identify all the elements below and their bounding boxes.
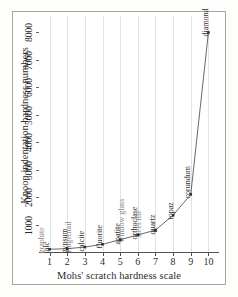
figure-page: Knoop indentation hardness numbers Mohs'… bbox=[0, 0, 238, 297]
y-tick-mark-8000 bbox=[36, 32, 39, 33]
annotation-label-window-glass: window glass bbox=[117, 198, 126, 242]
gridline-x-2 bbox=[67, 16, 68, 252]
y-tick-mark-4000 bbox=[36, 142, 39, 143]
y-tick-mark-7000 bbox=[36, 60, 39, 61]
y-tick-label-4000: 4000 bbox=[24, 133, 34, 152]
data-point-label-calcite: calcite bbox=[78, 231, 87, 252]
y-tick-mark-2000 bbox=[36, 197, 39, 198]
y-tick-label-7000: 7000 bbox=[24, 51, 34, 70]
x-tick-label-10: 10 bbox=[198, 256, 218, 267]
data-point-label-corundum: corundum bbox=[184, 166, 193, 198]
y-tick-mark-5000 bbox=[36, 115, 39, 116]
annotation-label-graphite: graphite bbox=[38, 228, 47, 254]
data-point-label-quartz: quartz bbox=[148, 215, 157, 235]
annotation-label-steel-file: steel file bbox=[135, 210, 144, 237]
y-tick-label-3000: 3000 bbox=[24, 161, 34, 180]
gridline-x-4 bbox=[103, 16, 104, 252]
gridline-x-3 bbox=[85, 16, 86, 252]
data-point-label-diamond: diamond bbox=[201, 9, 210, 37]
y-tick-mark-1000 bbox=[36, 225, 39, 226]
gridline-x-1 bbox=[50, 16, 51, 252]
annotation-label-fingernail: fingernail bbox=[64, 221, 73, 252]
gridline-x-10 bbox=[208, 16, 209, 252]
data-point-label-fluorite: fluorite bbox=[96, 225, 105, 249]
y-tick-label-5000: 5000 bbox=[24, 106, 34, 125]
x-axis-title: Mohs' scratch hardness scale bbox=[12, 270, 226, 281]
y-tick-mark-3000 bbox=[36, 170, 39, 171]
y-tick-mark-6000 bbox=[36, 87, 39, 88]
data-point-label-topaz: topaz bbox=[166, 202, 175, 219]
y-tick-label-6000: 6000 bbox=[24, 78, 34, 97]
y-tick-label-1000: 1000 bbox=[24, 216, 34, 235]
y-tick-label-8000: 8000 bbox=[24, 23, 34, 42]
gridline-x-9 bbox=[191, 16, 192, 252]
y-tick-label-2000: 2000 bbox=[24, 188, 34, 207]
